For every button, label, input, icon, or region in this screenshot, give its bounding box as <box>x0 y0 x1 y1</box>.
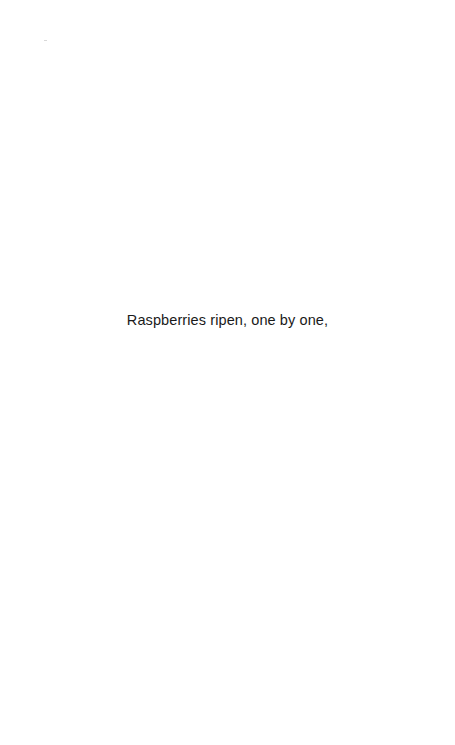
poem-line: Raspberries ripen, one by one, <box>0 311 455 329</box>
page-header-mark <box>44 40 47 41</box>
document-page: Raspberries ripen, one by one, <box>0 0 455 745</box>
